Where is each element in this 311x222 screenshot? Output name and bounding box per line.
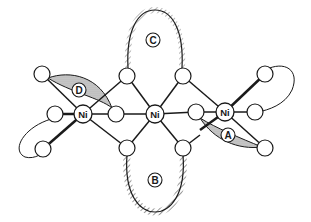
svg-text:B: B xyxy=(151,175,158,186)
atom-bridge-top-left xyxy=(119,68,135,84)
ni-right-label: Ni xyxy=(220,107,230,118)
atom-left-top xyxy=(34,66,50,82)
atom-right-bottom xyxy=(257,140,273,156)
atom-right-mid xyxy=(247,104,263,120)
ni-left-label: Ni xyxy=(78,109,88,120)
atom-right-top xyxy=(257,66,273,82)
svg-text:C: C xyxy=(149,35,156,46)
ni-atom-left: Ni xyxy=(74,105,92,123)
ni-atom-center: Ni xyxy=(146,105,164,123)
trinickel-structure-diagram: Ni Ni Ni C D A B xyxy=(0,0,311,222)
atom-left-mid xyxy=(47,106,63,122)
atom-left-bottom xyxy=(35,141,51,157)
ni-atom-right: Ni xyxy=(216,103,234,121)
ni-center-label: Ni xyxy=(150,109,160,120)
label-b: B xyxy=(148,173,162,187)
svg-text:A: A xyxy=(224,130,231,141)
label-d: D xyxy=(72,83,86,97)
svg-text:D: D xyxy=(75,85,82,96)
label-c: C xyxy=(146,33,160,47)
atom-bridge-bottom-right xyxy=(175,140,191,156)
atom-ring-right xyxy=(188,104,204,120)
label-a: A xyxy=(221,128,235,142)
atom-bridge-top-right xyxy=(175,68,191,84)
atom-ring-left xyxy=(108,106,124,122)
atom-bridge-bottom-left xyxy=(119,140,135,156)
